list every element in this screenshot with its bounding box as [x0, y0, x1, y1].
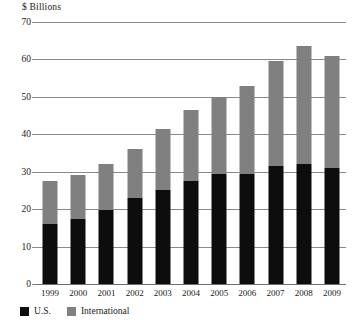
bar-segment-us[interactable] — [240, 174, 255, 284]
bar-group[interactable]: 2001 — [99, 22, 114, 284]
y-axis-unit-title: $ Billions — [22, 2, 61, 12]
bar-group[interactable]: 2000 — [71, 22, 86, 284]
x-tick-label-2007: 2007 — [267, 288, 285, 298]
legend-label: U.S. — [34, 306, 51, 316]
bar-segment-international[interactable] — [127, 149, 142, 198]
bar-group[interactable]: 2004 — [184, 22, 199, 284]
bar-group[interactable]: 2006 — [240, 22, 255, 284]
y-tick-label-10: 10 — [22, 242, 32, 252]
legend-swatch-icon — [20, 307, 29, 316]
bar-group[interactable]: 2009 — [324, 22, 339, 284]
y-tick-label-20: 20 — [22, 204, 32, 214]
y-tick-label-0: 0 — [26, 279, 31, 289]
gridline-0 — [36, 284, 346, 285]
y-tick-label-50: 50 — [22, 92, 32, 102]
bar-group[interactable]: 2002 — [127, 22, 142, 284]
bar-group[interactable]: 2007 — [268, 22, 283, 284]
y-tick-label-40: 40 — [22, 129, 32, 139]
bar-segment-us[interactable] — [99, 210, 114, 284]
bar-segment-international[interactable] — [268, 61, 283, 166]
bar-segment-international[interactable] — [296, 46, 311, 164]
bar-segment-us[interactable] — [184, 181, 199, 284]
bar-segment-international[interactable] — [184, 110, 199, 181]
bar-segment-international[interactable] — [71, 175, 86, 218]
bar-segment-us[interactable] — [71, 219, 86, 285]
bar-group[interactable]: 2003 — [155, 22, 170, 284]
bar-segment-us[interactable] — [43, 224, 58, 284]
chart-legend: U.S.International — [20, 306, 129, 316]
y-tick-mark-0 — [32, 284, 36, 285]
bar-segment-us[interactable] — [296, 164, 311, 284]
bar-segment-us[interactable] — [324, 168, 339, 284]
bar-group[interactable]: 1999 — [43, 22, 58, 284]
bar-segment-us[interactable] — [212, 174, 227, 284]
bar-segment-us[interactable] — [127, 198, 142, 284]
bar-group[interactable]: 2008 — [296, 22, 311, 284]
x-tick-label-1999: 1999 — [41, 288, 59, 298]
x-tick-label-2009: 2009 — [323, 288, 341, 298]
x-tick-label-2004: 2004 — [182, 288, 200, 298]
bar-segment-international[interactable] — [99, 164, 114, 210]
x-tick-label-2006: 2006 — [238, 288, 256, 298]
legend-item[interactable]: International — [67, 306, 130, 316]
bar-segment-us[interactable] — [155, 190, 170, 284]
legend-item[interactable]: U.S. — [20, 306, 51, 316]
plot-area: 010203040506070 199920002001200220032004… — [36, 22, 346, 284]
x-tick-label-2003: 2003 — [154, 288, 172, 298]
y-tick-label-60: 60 — [22, 54, 32, 64]
legend-swatch-icon — [67, 307, 76, 316]
y-tick-label-30: 30 — [22, 167, 32, 177]
bar-segment-international[interactable] — [324, 56, 339, 168]
bar-series-layer: 1999200020012002200320042005200620072008… — [36, 22, 346, 284]
x-tick-label-2000: 2000 — [69, 288, 87, 298]
legend-label: International — [81, 306, 130, 316]
x-tick-label-2008: 2008 — [295, 288, 313, 298]
y-tick-label-70: 70 — [22, 17, 32, 27]
bar-segment-international[interactable] — [43, 181, 58, 224]
bar-group[interactable]: 2005 — [212, 22, 227, 284]
bar-segment-international[interactable] — [155, 129, 170, 191]
bar-segment-international[interactable] — [212, 97, 227, 174]
x-tick-label-2005: 2005 — [210, 288, 228, 298]
bar-segment-international[interactable] — [240, 86, 255, 174]
stacked-bar-chart: $ Billions 010203040506070 1999200020012… — [0, 0, 352, 327]
x-tick-label-2002: 2002 — [126, 288, 144, 298]
x-tick-label-2001: 2001 — [97, 288, 115, 298]
bar-segment-us[interactable] — [268, 166, 283, 284]
